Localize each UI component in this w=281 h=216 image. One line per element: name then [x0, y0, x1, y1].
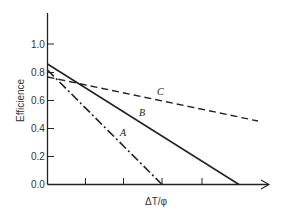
- y-tick-label: 0.4: [31, 123, 45, 134]
- y-tick-label: 0.8: [31, 67, 45, 78]
- series-b-label: B: [139, 107, 145, 118]
- series-c-label: C: [157, 86, 164, 97]
- chart: 0.0 0.2 0.4 0.6 0.8 1.0 Efficience ΔT/φ …: [0, 0, 281, 216]
- y-tick-label: 0.2: [31, 151, 45, 162]
- series-a-line: [48, 70, 163, 185]
- y-tick-label: 1.0: [31, 39, 45, 50]
- y-tick-label: 0.6: [31, 95, 45, 106]
- y-ticks: [48, 44, 55, 157]
- series-a-label: A: [119, 127, 127, 138]
- x-ticks: [86, 178, 203, 185]
- y-tick-label: 0.0: [31, 179, 45, 190]
- series-b-line: [48, 64, 240, 185]
- x-axis-label: ΔT/φ: [145, 196, 168, 207]
- y-axis-label: Efficience: [15, 78, 26, 122]
